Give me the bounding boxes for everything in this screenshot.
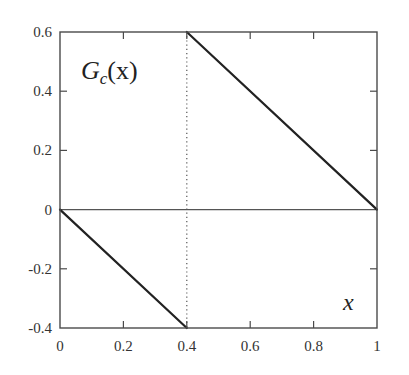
y-tick-label: -0.4 [28,320,52,336]
series-line-2 [187,32,377,210]
y-tick-label: 0.2 [33,142,52,158]
function-label: Gc(x) [81,56,138,88]
series-line-1 [60,210,187,328]
x-tick-label: 0.4 [177,338,196,354]
x-tick-label: 0 [56,338,64,354]
chart: 00.20.40.60.81-0.4-0.200.20.40.6 Gc(x) x [0,0,409,375]
x-tick-label: 0.8 [304,338,323,354]
y-tick-label: 0 [45,202,53,218]
y-tick-label: -0.2 [28,261,52,277]
y-tick-label: 0.4 [33,83,52,99]
x-tick-label: 1 [373,338,381,354]
x-tick-label: 0.2 [114,338,133,354]
x-axis-label: x [342,289,354,315]
y-tick-label: 0.6 [33,24,52,40]
x-tick-label: 0.6 [241,338,260,354]
